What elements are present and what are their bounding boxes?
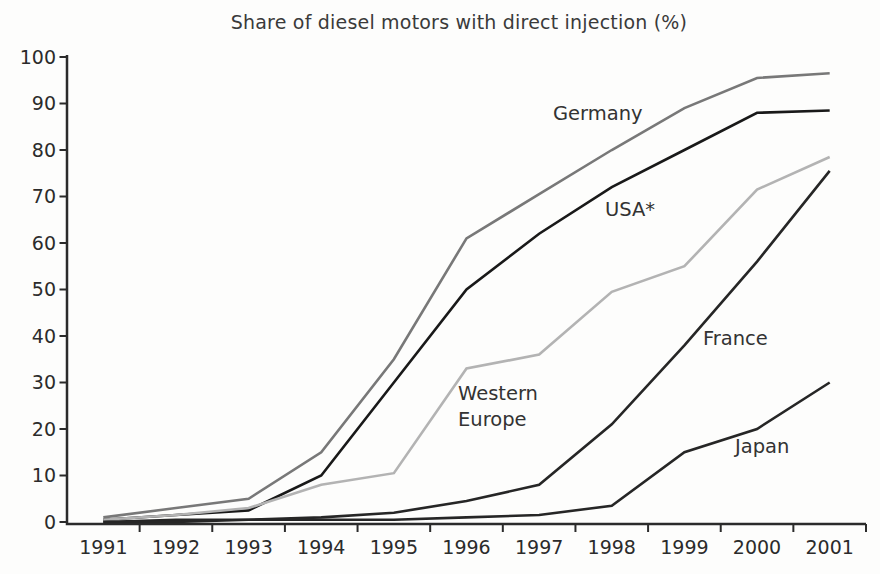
y-tick-label: 80 xyxy=(32,139,56,161)
x-tick-label: 1994 xyxy=(297,536,345,558)
series-label-usa: USA* xyxy=(605,198,655,221)
x-tick-label: 2000 xyxy=(733,536,781,558)
x-tick-label: 1995 xyxy=(370,536,418,558)
series-label-germany: Germany xyxy=(553,102,643,125)
series-line-usa xyxy=(103,110,829,519)
x-tick-label: 1997 xyxy=(515,536,563,558)
y-tick-label: 30 xyxy=(32,371,56,393)
series-label-france: France xyxy=(703,327,768,350)
x-tick-label: 1999 xyxy=(660,536,708,558)
y-tick-label: 40 xyxy=(32,325,56,347)
x-tick-label: 1998 xyxy=(588,536,636,558)
chart: Share of diesel motors with direct injec… xyxy=(0,0,880,574)
y-tick-label: 70 xyxy=(32,185,56,207)
x-tick-label: 1991 xyxy=(79,536,127,558)
y-tick-label: 90 xyxy=(32,92,56,114)
y-tick-label: 20 xyxy=(32,418,56,440)
x-tick-label: 1996 xyxy=(442,536,490,558)
y-tick-label: 60 xyxy=(32,232,56,254)
series-line-germany xyxy=(103,73,829,517)
plot-area: 0102030405060708090100199119921993199419… xyxy=(0,0,880,574)
y-tick-label: 100 xyxy=(20,46,56,68)
y-tick-label: 10 xyxy=(32,464,56,486)
series-label-western-europe: WesternEurope xyxy=(458,382,538,431)
x-tick-label: 1992 xyxy=(152,536,200,558)
y-tick-label: 50 xyxy=(32,278,56,300)
x-tick-label: 2001 xyxy=(806,536,854,558)
series-label-japan: Japan xyxy=(733,435,789,458)
y-tick-label: 0 xyxy=(44,511,56,533)
x-tick-label: 1993 xyxy=(224,536,272,558)
